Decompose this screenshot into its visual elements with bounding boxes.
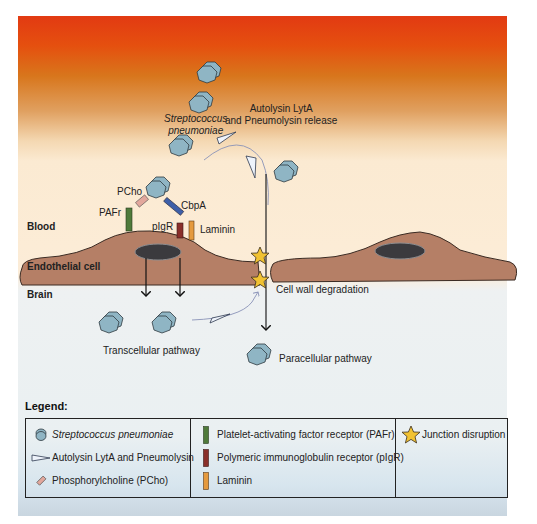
- bacteria-label-line1: Streptococcus: [164, 113, 227, 125]
- star-icon: [400, 426, 422, 444]
- legend-column-1: Streptococcus pneumoniae Autolysin LytA …: [26, 419, 191, 497]
- bacteria-label: Streptococcus pneumoniae: [164, 113, 227, 136]
- legend-label: Streptococcus pneumoniae: [52, 429, 173, 440]
- transcellular-label: Transcellular pathway: [103, 345, 200, 357]
- bacteria-label-line2: pneumoniae: [164, 125, 227, 137]
- bacteria-icon: [146, 177, 170, 198]
- release-label-line2: and Pneumolysin release: [225, 115, 337, 127]
- legend-label: Autolysin LytA and Pneumolysin: [52, 452, 194, 463]
- legend-title: Legend:: [25, 400, 68, 412]
- pigr-receptor: [177, 223, 183, 238]
- bacteria-icon: [197, 62, 221, 83]
- pigr-label: pIgR: [152, 221, 173, 233]
- brain-region-label: Brain: [27, 289, 53, 301]
- release-label-line1: Autolysin LytA: [225, 103, 337, 115]
- laminin-receptor: [189, 221, 194, 240]
- legend-label: Phosphorylcholine (PCho): [52, 475, 168, 486]
- bacteria-icon: [30, 428, 52, 442]
- bacteria-icon: [189, 92, 213, 113]
- bacteria-icon: [247, 344, 271, 365]
- legend-item-pigr: Polymeric immunoglobulin receptor (pIgR): [195, 446, 391, 469]
- legend-item-bacteria: Streptococcus pneumoniae: [30, 423, 186, 446]
- paracellular-label: Paracellular pathway: [279, 353, 372, 365]
- legend-item-laminin: Laminin: [195, 469, 391, 492]
- endothelial-cell-right: [271, 232, 517, 282]
- legend-item-junction: Junction disruption: [400, 423, 505, 446]
- pafr-receptor: [126, 208, 132, 231]
- pcho-label: PCho: [117, 186, 142, 198]
- bacteria-icon: [99, 312, 123, 333]
- legend: Streptococcus pneumoniae Autolysin LytA …: [25, 418, 508, 498]
- laminin-bar-icon: [195, 472, 217, 490]
- legend-column-2: Platelet-activating factor receptor (PAF…: [191, 419, 396, 497]
- laminin-label: Laminin: [200, 224, 235, 236]
- pigr-bar-icon: [195, 449, 217, 467]
- cbpa-label: CbpA: [181, 200, 206, 212]
- legend-item-pcho: Phosphorylcholine (PCho): [30, 469, 186, 492]
- endothelial-cell-label: Endothelial cell: [27, 261, 100, 273]
- pafr-bar-icon: [195, 426, 217, 444]
- release-label: Autolysin LytA and Pneumolysin release: [225, 103, 337, 126]
- cell-wall-degradation-label: Cell wall degradation: [276, 284, 369, 296]
- legend-label: Platelet-activating factor receptor (PAF…: [217, 429, 395, 440]
- legend-label: Junction disruption: [422, 429, 505, 440]
- toxin-wedge-icon: [30, 454, 52, 462]
- legend-item-toxin: Autolysin LytA and Pneumolysin: [30, 446, 186, 469]
- blood-region-label: Blood: [27, 221, 55, 233]
- legend-column-3: Junction disruption: [396, 419, 509, 497]
- pafr-label: PAFr: [99, 207, 121, 219]
- endothelial-cell-left: [20, 231, 260, 285]
- legend-label: Polymeric immunoglobulin receptor (pIgR): [217, 452, 404, 463]
- pcho-icon: [30, 474, 52, 488]
- legend-label: Laminin: [217, 475, 252, 486]
- bacteria-icon: [152, 312, 176, 333]
- bacteria-icon: [169, 135, 193, 156]
- bacteria-icon: [274, 161, 298, 182]
- legend-item-pafr: Platelet-activating factor receptor (PAF…: [195, 423, 391, 446]
